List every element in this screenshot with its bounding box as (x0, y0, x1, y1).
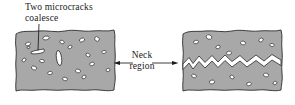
microvoid (270, 43, 275, 47)
left-specimen-block (16, 30, 116, 91)
figure-graphics (0, 0, 295, 105)
ductile-fracture-figure: Two microcracks coalesce Neck region (0, 0, 295, 105)
left-specimen-outline (16, 30, 116, 91)
microvoid (39, 59, 44, 63)
right-specimen-block (183, 30, 283, 91)
neck-arrow-right (152, 61, 179, 65)
neck-arrow-left (114, 61, 134, 65)
